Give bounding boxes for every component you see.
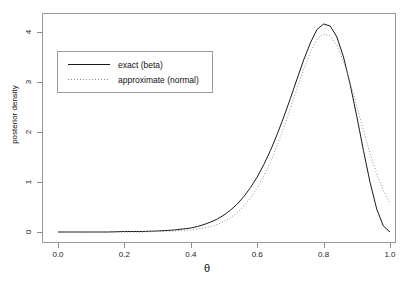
legend-label-approximate-normal: approximate (normal) xyxy=(118,73,199,87)
posterior-density-chart: θ posterior density exact (beta) approxi… xyxy=(0,0,414,284)
y-tick xyxy=(37,232,42,233)
x-tick-label: 0.4 xyxy=(185,250,196,259)
legend-key-approximate-normal xyxy=(68,79,110,80)
curve-layer xyxy=(42,13,396,243)
x-tick xyxy=(58,243,59,248)
legend-item-exact-beta: exact (beta) xyxy=(58,58,214,72)
x-tick xyxy=(124,243,125,248)
x-tick-label: 1.0 xyxy=(384,250,395,259)
x-tick xyxy=(257,243,258,248)
x-tick-label: 0.6 xyxy=(252,250,263,259)
x-tick xyxy=(390,243,391,248)
y-tick-label: 1 xyxy=(24,176,33,188)
x-tick xyxy=(324,243,325,248)
y-tick xyxy=(37,132,42,133)
y-tick-label: 3 xyxy=(24,76,33,88)
x-axis-label: θ xyxy=(0,262,414,274)
x-tick-label: 0.2 xyxy=(119,250,130,259)
x-tick-label: 0.8 xyxy=(318,250,329,259)
legend-item-approximate-normal: approximate (normal) xyxy=(58,73,214,87)
y-tick xyxy=(37,182,42,183)
y-tick-label: 2 xyxy=(24,126,33,138)
y-tick xyxy=(37,82,42,83)
legend: exact (beta) approximate (normal) xyxy=(57,51,213,93)
legend-label-exact-beta: exact (beta) xyxy=(118,58,163,72)
legend-key-exact-beta xyxy=(68,64,110,65)
y-tick xyxy=(37,32,42,33)
x-tick xyxy=(191,243,192,248)
x-tick-label: 0.0 xyxy=(52,250,63,259)
y-tick-label: 0 xyxy=(24,226,33,238)
y-tick-label: 4 xyxy=(24,26,33,38)
y-axis-label: posterior density xyxy=(10,65,19,165)
